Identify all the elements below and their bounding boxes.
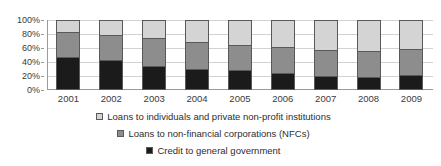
legend-item-individuals: Loans to individuals and private non-pro… <box>0 108 441 125</box>
y-axis-tick-label: 20% <box>22 72 40 81</box>
x-axis-tick-label: 2003 <box>142 92 166 106</box>
legend-item-government: Credit to general government <box>0 142 441 159</box>
y-axis: 100% 80% 60% 40% 20% 0% <box>0 20 44 90</box>
bar-segment-individuals <box>56 20 80 32</box>
bar-segment-individuals <box>142 20 166 38</box>
y-axis-tick-mark <box>41 90 44 91</box>
chart-legend: Loans to individuals and private non-pro… <box>0 108 441 159</box>
bar-series-container <box>47 20 433 90</box>
bar-segment-government <box>314 76 338 90</box>
y-axis-tick-label: 60% <box>22 44 40 53</box>
bar-group-2004 <box>185 20 209 90</box>
bar-group-2006 <box>271 20 295 90</box>
y-axis-tick-label: 40% <box>22 58 40 67</box>
legend-item-nfc: Loans to non-financial corporations (NFC… <box>0 125 441 142</box>
legend-swatch-icon <box>146 147 153 154</box>
legend-item-label: Credit to general government <box>157 146 280 156</box>
x-axis-tick-label: 2008 <box>357 92 381 106</box>
bar-segment-government <box>228 70 252 90</box>
bar-group-2009 <box>399 20 423 90</box>
y-axis-tick-label: 100% <box>17 16 40 25</box>
bar-segment-government <box>56 57 80 90</box>
bar-segment-individuals <box>185 20 209 42</box>
bar-group-2003 <box>142 20 166 90</box>
y-axis-tick-mark <box>41 34 44 35</box>
x-axis-tick-label: 2004 <box>185 92 209 106</box>
x-axis-tick-label: 2009 <box>399 92 423 106</box>
bar-segment-nfc <box>56 32 80 57</box>
bar-segment-nfc <box>357 51 381 78</box>
bar-segment-individuals <box>271 20 295 47</box>
bar-segment-government <box>399 75 423 90</box>
bar-segment-individuals <box>314 20 338 50</box>
bar-segment-nfc <box>142 38 166 65</box>
bar-segment-government <box>185 69 209 90</box>
x-axis-tick-label: 2001 <box>56 92 80 106</box>
bar-segment-individuals <box>228 20 252 45</box>
legend-item-label: Loans to individuals and private non-pro… <box>107 112 330 122</box>
y-axis-tick-mark <box>41 62 44 63</box>
y-axis-tick-mark <box>41 48 44 49</box>
bar-segment-individuals <box>399 20 423 49</box>
bar-segment-nfc <box>228 45 252 70</box>
bar-segment-individuals <box>357 20 381 51</box>
x-axis-tick-label: 2002 <box>99 92 123 106</box>
bar-group-2001 <box>56 20 80 90</box>
x-axis-tick-label: 2005 <box>228 92 252 106</box>
bar-segment-government <box>271 73 295 90</box>
y-axis-tick-label: 80% <box>22 30 40 39</box>
bar-segment-nfc <box>314 50 338 76</box>
y-axis-tick-mark <box>41 20 44 21</box>
bar-segment-nfc <box>185 42 209 69</box>
bar-group-2002 <box>99 20 123 90</box>
bar-segment-nfc <box>399 49 423 75</box>
bar-segment-government <box>357 77 381 90</box>
bar-segment-government <box>142 66 166 91</box>
bar-segment-nfc <box>271 47 295 73</box>
bar-segment-government <box>99 60 123 90</box>
legend-swatch-icon <box>117 130 124 137</box>
bar-group-2008 <box>357 20 381 90</box>
x-axis: 2001 2002 2003 2004 2005 2006 2007 2008 … <box>47 92 433 106</box>
bar-group-2005 <box>228 20 252 90</box>
plot-area <box>47 20 433 90</box>
legend-item-label: Loans to non-financial corporations (NFC… <box>128 129 309 139</box>
bar-group-2007 <box>314 20 338 90</box>
y-axis-tick-mark <box>41 76 44 77</box>
bar-segment-individuals <box>99 20 123 35</box>
x-axis-tick-label: 2006 <box>271 92 295 106</box>
stacked-bar-chart: 100% 80% 60% 40% 20% 0% <box>0 0 441 166</box>
bar-segment-nfc <box>99 35 123 60</box>
legend-swatch-icon <box>96 113 103 120</box>
x-axis-tick-label: 2007 <box>314 92 338 106</box>
y-axis-tick-label: 0% <box>27 86 40 95</box>
